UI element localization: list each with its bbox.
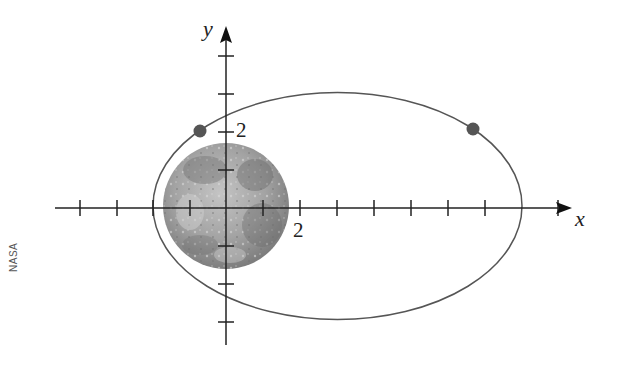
y-tick-label-2: 2 bbox=[236, 118, 247, 143]
x-tick-label-2: 2 bbox=[293, 218, 304, 243]
orbit-point-left bbox=[194, 125, 207, 138]
x-axis bbox=[55, 200, 560, 216]
x-axis-label: x bbox=[575, 206, 585, 232]
orbit-point-right bbox=[467, 123, 480, 136]
y-axis-label: y bbox=[203, 16, 213, 42]
image-credit: NASA bbox=[8, 243, 19, 272]
orbit-diagram: y x 2 2 NASA bbox=[0, 0, 620, 365]
